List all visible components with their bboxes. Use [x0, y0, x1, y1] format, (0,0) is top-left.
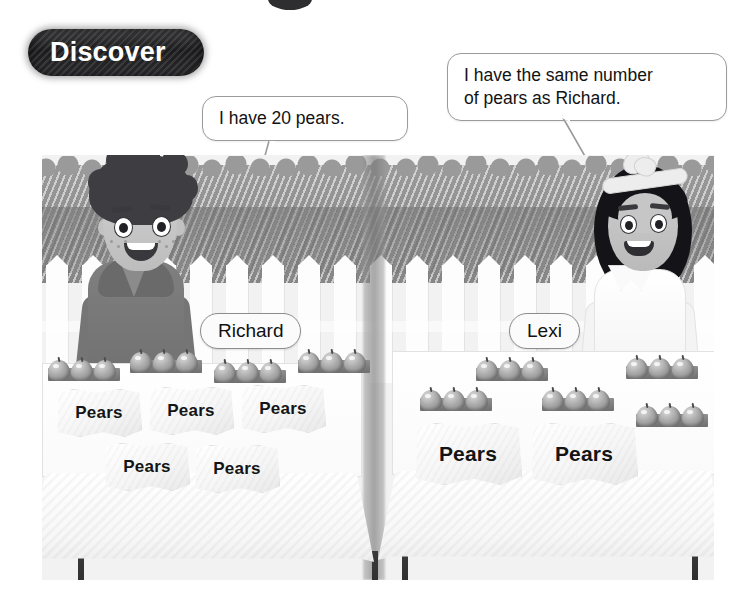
pear-highlight	[53, 364, 59, 368]
pear	[522, 360, 544, 381]
speech-bubble-lexi-text: I have the same number of pears as Richa…	[464, 65, 653, 108]
pear-highlight	[687, 410, 693, 414]
pear	[48, 360, 70, 381]
pear-tray	[298, 345, 370, 373]
pear-bag: Pears	[530, 423, 638, 485]
cut-off-glyph	[268, 0, 312, 10]
pear-highlight	[219, 366, 225, 370]
pear-bag: Pears	[148, 387, 234, 435]
lexi-hair-bow	[622, 155, 662, 181]
pear-highlight	[425, 394, 431, 398]
pear-bag-label: Pears	[167, 401, 214, 421]
pear-highlight	[481, 364, 487, 368]
pear-highlight	[547, 394, 553, 398]
pear	[420, 390, 442, 411]
richard-freckle	[172, 240, 175, 243]
pear-highlight	[471, 394, 477, 398]
richard-freckle	[110, 240, 113, 243]
pear	[565, 390, 587, 411]
pear	[71, 360, 93, 381]
pear-highlight	[303, 356, 309, 360]
richard-hair-curl	[88, 169, 114, 195]
richard-hair-curl	[176, 175, 198, 201]
pear-highlight	[181, 356, 187, 360]
richard-eye-left	[114, 217, 133, 238]
richard-freckle	[158, 240, 161, 243]
pear	[130, 352, 152, 373]
lexi-eye-right	[650, 214, 667, 233]
speech-bubble-richard-text: I have 20 pears.	[219, 108, 345, 128]
nametag-lexi: Lexi	[509, 313, 580, 349]
pear	[344, 352, 366, 373]
pear-highlight	[504, 364, 510, 368]
pear-highlight	[664, 410, 670, 414]
pear-bag: Pears	[56, 389, 142, 437]
pear	[672, 358, 694, 379]
pear	[649, 358, 671, 379]
discover-badge: Discover	[28, 29, 204, 76]
pear-bag-label: Pears	[555, 442, 613, 466]
richard-freckle	[165, 245, 168, 248]
pear	[542, 390, 564, 411]
pear-tray	[636, 399, 708, 427]
pear-bag-label: Pears	[213, 459, 260, 479]
pear	[153, 352, 175, 373]
lexi-teeth	[627, 241, 651, 247]
speech-bubble-lexi: I have the same number of pears as Richa…	[447, 53, 727, 121]
pear-highlight	[76, 364, 82, 368]
pear-bag: Pears	[104, 443, 190, 491]
pear	[588, 390, 610, 411]
pear	[237, 362, 259, 383]
richard-eye-right	[152, 216, 171, 237]
richard-pupil-right	[157, 222, 166, 232]
pear	[466, 390, 488, 411]
pear	[636, 406, 658, 427]
pear-tray	[476, 353, 548, 381]
pear-highlight	[326, 356, 332, 360]
pear-highlight	[527, 364, 533, 368]
pear-highlight	[448, 394, 454, 398]
pear-tray	[420, 383, 492, 411]
pear-highlight	[677, 362, 683, 366]
richard-table-leg	[372, 551, 378, 580]
pear	[94, 360, 116, 381]
pear-bag: Pears	[240, 385, 326, 433]
pear	[659, 406, 681, 427]
lexi-pupil-right	[655, 220, 663, 229]
nametag-richard: Richard	[200, 313, 301, 349]
pear	[626, 358, 648, 379]
pear-bag-label: Pears	[75, 403, 122, 423]
market-scene: Pears Pears Pears Pears Pears	[42, 155, 714, 580]
pear-highlight	[242, 366, 248, 370]
pear-highlight	[349, 356, 355, 360]
pear-highlight	[99, 364, 105, 368]
richard-freckle	[117, 245, 120, 248]
richard-teeth	[127, 243, 155, 250]
pear	[260, 362, 282, 383]
lexi-table-cloth	[378, 471, 714, 560]
pear-bag: Pears	[414, 423, 522, 485]
discover-badge-label: Discover	[28, 39, 166, 66]
pear	[214, 362, 236, 383]
pear-bag-label: Pears	[259, 399, 306, 419]
pear-bag-label: Pears	[439, 442, 497, 466]
pear-tray	[626, 351, 698, 379]
lexi-pupil-left	[625, 221, 633, 230]
pear-highlight	[135, 356, 141, 360]
nametag-lexi-label: Lexi	[527, 320, 562, 342]
pear-highlight	[654, 362, 660, 366]
pear	[499, 360, 521, 381]
pear-tray	[48, 353, 120, 381]
pear-highlight	[570, 394, 576, 398]
pear-highlight	[641, 410, 647, 414]
pear-bag: Pears	[194, 445, 280, 493]
pear	[298, 352, 320, 373]
richard-pupil-left	[119, 223, 128, 233]
nametag-richard-label: Richard	[218, 320, 283, 342]
speech-bubble-richard: I have 20 pears.	[202, 96, 408, 141]
lexi-eye-left	[620, 215, 637, 234]
pear	[321, 352, 343, 373]
pear-tray	[214, 355, 286, 383]
pear-bag-label: Pears	[123, 457, 170, 477]
pear-tray	[542, 383, 614, 411]
